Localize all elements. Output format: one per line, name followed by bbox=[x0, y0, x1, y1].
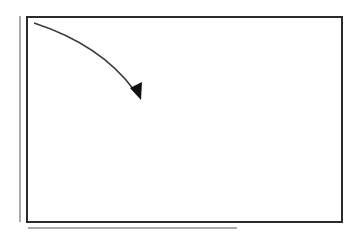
curved-arrow-icon bbox=[0, 0, 349, 233]
diagram-canvas bbox=[0, 0, 349, 233]
arrowhead bbox=[130, 82, 142, 100]
arrow-curve bbox=[34, 23, 134, 90]
